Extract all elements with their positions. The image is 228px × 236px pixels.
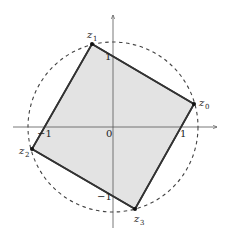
x-tick-1: 1 bbox=[180, 128, 186, 139]
y-tick-neg1: −1 bbox=[97, 191, 112, 202]
svg-text:z: z bbox=[198, 97, 205, 108]
label-z2: z 2 bbox=[18, 145, 29, 159]
svg-text:3: 3 bbox=[140, 219, 144, 227]
svg-text:z: z bbox=[133, 213, 140, 224]
svg-text:1: 1 bbox=[93, 35, 97, 43]
y-tick-1: 1 bbox=[105, 51, 111, 62]
label-z1: z 1 bbox=[86, 29, 97, 43]
svg-text:z: z bbox=[86, 29, 93, 40]
vertex-z0-dot bbox=[192, 102, 196, 106]
label-z0: z 0 bbox=[198, 97, 209, 111]
vertex-z3-dot bbox=[133, 207, 137, 211]
label-z3: z 3 bbox=[133, 213, 144, 227]
x-tick-neg1: −1 bbox=[37, 128, 52, 139]
vertex-z2-dot bbox=[30, 147, 34, 151]
complex-plane-diagram: 0 −1 1 1 −1 z 0 z 1 z 2 z 3 bbox=[0, 0, 228, 236]
origin-label: 0 bbox=[106, 128, 112, 139]
svg-text:0: 0 bbox=[205, 103, 209, 111]
svg-text:2: 2 bbox=[25, 151, 29, 159]
svg-text:z: z bbox=[18, 145, 25, 156]
